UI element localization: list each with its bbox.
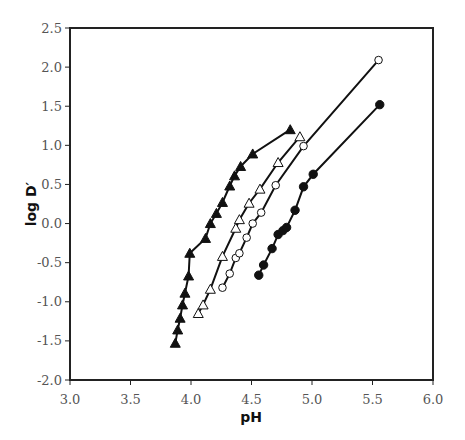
y-tick-label: -0.5	[37, 255, 62, 270]
x-axis-ticks: 3.03.54.04.55.05.56.0	[60, 380, 444, 407]
filled-triangle-marker	[205, 219, 215, 228]
y-tick-label: -1.5	[37, 333, 62, 348]
open-triangle-marker	[205, 284, 215, 293]
filled-triangle-marker	[248, 149, 258, 158]
filled-triangle-marker	[211, 208, 221, 217]
open-triangle-marker	[234, 215, 244, 224]
y-tick-label: 2.0	[41, 60, 62, 75]
x-tick-label: 6.0	[423, 392, 444, 407]
series-open-circles	[219, 56, 383, 291]
open-triangle-marker	[295, 132, 305, 141]
filled-circle-marker	[282, 223, 290, 231]
chart: 3.03.54.04.55.05.56.0 2.52.01.51.00.50.0…	[0, 0, 465, 440]
filled-triangle-marker	[175, 313, 185, 322]
open-circle-marker	[236, 249, 244, 257]
open-circle-marker	[249, 220, 257, 228]
filled-circle-marker	[299, 183, 307, 191]
x-tick-label: 3.5	[120, 392, 141, 407]
y-tick-label: 2.5	[41, 21, 62, 36]
open-circle-marker	[300, 142, 308, 150]
y-tick-label: -2.0	[37, 373, 62, 388]
x-axis-title: pH	[240, 409, 262, 425]
filled-triangle-marker	[217, 197, 227, 206]
open-triangle-marker	[217, 251, 227, 260]
filled-triangle-marker	[225, 181, 235, 190]
y-tick-label: 1.5	[41, 99, 62, 114]
y-axis-ticks: 2.52.01.51.00.50.0-0.5-1.0-1.5-2.0	[37, 21, 70, 388]
y-tick-label: -1.0	[37, 294, 62, 309]
filled-triangle-marker	[180, 288, 190, 297]
filled-triangle-marker	[201, 233, 211, 242]
open-circle-marker	[375, 56, 383, 64]
y-axis-title: log D′	[23, 181, 39, 226]
open-triangle-marker	[193, 309, 203, 318]
series-layer	[170, 56, 384, 347]
filled-triangle-marker	[184, 271, 194, 280]
filled-circle-marker	[309, 170, 317, 178]
open-circle-marker	[243, 234, 251, 242]
open-circle-marker	[257, 209, 265, 217]
x-tick-label: 5.5	[362, 392, 383, 407]
filled-triangle-marker	[178, 300, 188, 309]
filled-triangle-marker	[285, 125, 295, 134]
filled-circle-marker	[259, 261, 267, 269]
x-tick-label: 5.0	[302, 392, 323, 407]
y-tick-label: 1.0	[41, 138, 62, 153]
filled-circle-marker	[376, 100, 384, 108]
filled-triangle-marker	[170, 338, 180, 347]
x-tick-label: 4.0	[181, 392, 202, 407]
series-line	[259, 105, 380, 276]
series-line	[222, 60, 378, 288]
x-tick-label: 3.0	[60, 392, 81, 407]
x-tick-label: 4.5	[241, 392, 262, 407]
filled-circle-marker	[255, 271, 263, 279]
open-circle-marker	[272, 181, 280, 189]
open-triangle-marker	[198, 300, 208, 309]
open-circle-marker	[219, 284, 227, 292]
y-tick-label: 0.0	[41, 216, 62, 231]
open-triangle-marker	[231, 223, 241, 232]
filled-circle-marker	[291, 206, 299, 214]
open-circle-marker	[226, 270, 234, 278]
filled-circle-marker	[268, 244, 276, 252]
y-tick-label: 0.5	[41, 177, 62, 192]
filled-triangle-marker	[173, 325, 183, 334]
